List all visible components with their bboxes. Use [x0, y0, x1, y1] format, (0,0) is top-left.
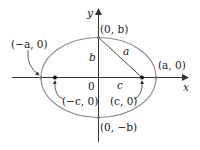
segment-a: [99, 38, 143, 78]
segment-b-label: b: [89, 51, 96, 63]
bottom-vertex-label: (0, −b): [100, 121, 137, 133]
right-vertex-dot: [154, 76, 157, 79]
right-focus-label: (c, 0): [110, 95, 137, 107]
ellipse-diagram: y x 0 (0, b) (0, −b) (−a, 0) (a, 0) (−c,…: [0, 0, 200, 150]
y-axis-label: y: [86, 7, 94, 19]
top-vertex-dot: [97, 36, 100, 39]
left-focus-label: (−c, 0): [62, 95, 98, 107]
top-vertex-label: (0, b): [100, 23, 128, 35]
left-focus-dot: [53, 76, 57, 80]
x-axis-label: x: [183, 81, 189, 93]
left-vertex-dot: [39, 76, 42, 79]
origin-label: 0: [88, 80, 95, 92]
segment-c-label: c: [117, 79, 123, 91]
bottom-vertex-dot: [97, 116, 100, 119]
right-focus-dot: [140, 76, 144, 80]
left-vertex-pointer-arrow: [28, 50, 39, 75]
right-vertex-label: (a, 0): [158, 59, 186, 71]
left-vertex-label: (−a, 0): [11, 38, 48, 50]
segment-a-label: a: [123, 45, 129, 57]
